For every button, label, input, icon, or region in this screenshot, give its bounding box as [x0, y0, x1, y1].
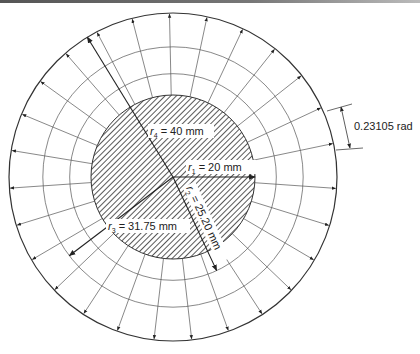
radial-flow-diagram: 0.23105 rad r4 = 40 mm r1 = 20 mm r3 = 3…	[0, 0, 420, 354]
flow-ray-arrow	[154, 258, 163, 338]
svg-text:r4 = 40 mm: r4 = 40 mm	[150, 125, 204, 139]
angle-label: 0.23105 rad	[354, 120, 413, 132]
flow-ray-arrow	[251, 201, 328, 225]
flow-ray-arrow	[182, 258, 191, 338]
flow-ray-arrow	[17, 201, 94, 225]
angle-dimension-arrow	[341, 107, 350, 148]
svg-text:r3 = 31.75 mm: r3 = 31.75 mm	[108, 220, 177, 234]
flow-ray-arrow	[97, 33, 135, 105]
label-r3: r3 = 31.75 mm	[106, 219, 190, 234]
flow-ray-arrow	[208, 30, 243, 103]
label-r4: r4 = 40 mm	[148, 124, 214, 139]
flow-ray-arrow	[22, 114, 97, 145]
flow-ray-arrow	[247, 108, 320, 142]
flow-ray-arrow	[253, 144, 332, 161]
angle-extension-line-upper	[327, 104, 352, 111]
flow-ray-arrow	[190, 18, 207, 97]
r1-value: = 20 mm	[196, 161, 242, 173]
r4-value: = 40 mm	[158, 125, 204, 137]
angle-dimension: 0.23105 rad	[327, 104, 413, 150]
label-r1: r1 = 20 mm	[186, 160, 256, 175]
flow-ray-arrow	[12, 151, 92, 164]
r3-value: = 31.75 mm	[116, 220, 177, 232]
flow-ray-arrow	[10, 183, 91, 189]
flow-ray-arrow	[118, 254, 146, 330]
flow-ray-arrow	[169, 14, 171, 95]
flow-ray-arrow	[132, 19, 152, 97]
svg-text:r1 = 20 mm: r1 = 20 mm	[188, 161, 242, 175]
flow-ray-arrow	[255, 183, 336, 189]
angle-extension-line-lower	[336, 148, 363, 150]
